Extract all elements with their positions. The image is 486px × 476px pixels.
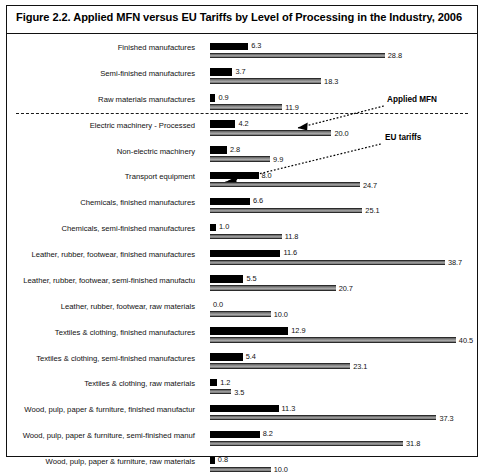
chart-row: Wood, pulp, paper & furniture, semi-fini… xyxy=(7,428,477,454)
applied-mfn-bar xyxy=(210,250,280,258)
row-bars: 8.231.8 xyxy=(210,428,477,454)
chart-row: Electric machinery - Processed4.220.0 xyxy=(7,118,477,144)
applied-mfn-bar xyxy=(210,457,215,465)
figure-title: Figure 2.2. Applied MFN versus EU Tariff… xyxy=(16,11,462,23)
applied-mfn-value: 0.9 xyxy=(218,93,228,102)
eu-tariffs-bar xyxy=(210,208,362,214)
row-bars: 5.423.1 xyxy=(210,351,477,377)
category-label: Chemicals, finished manufactures xyxy=(80,198,195,207)
eu-tariffs-value: 38.7 xyxy=(448,258,462,267)
eu-tariffs-bar xyxy=(210,337,456,343)
chart-row: Wood, pulp, paper & furniture, finished … xyxy=(7,402,477,428)
eu-tariffs-bar xyxy=(210,363,350,369)
category-label: Textiles & clothing, raw materials xyxy=(84,379,195,388)
chart-row: Textiles & clothing, finished manufactur… xyxy=(7,325,477,351)
applied-mfn-bar xyxy=(210,327,288,335)
row-bars: 12.940.5 xyxy=(210,325,477,351)
category-label: Wood, pulp, paper & furniture, finished … xyxy=(24,405,195,414)
figure-frame: Figure 2.2. Applied MFN versus EU Tariff… xyxy=(6,5,478,457)
row-bars: 4.220.0 xyxy=(210,118,477,144)
applied-mfn-value: 12.9 xyxy=(291,326,305,335)
category-label: Transport equipment xyxy=(125,172,195,181)
eu-tariffs-bar xyxy=(210,415,436,421)
chart-row: Textiles & clothing, raw materials1.23.5 xyxy=(7,376,477,402)
category-label: Textiles & clothing, finished manufactur… xyxy=(55,328,195,337)
applied-mfn-bar xyxy=(210,431,260,439)
applied-mfn-value: 6.6 xyxy=(253,196,263,205)
applied-mfn-bar xyxy=(210,172,259,180)
eu-tariffs-bar xyxy=(210,467,271,473)
chart-row: Chemicals, semi-finished manufactures1.0… xyxy=(7,221,477,247)
category-label: Textiles & clothing, semi-finished manuf… xyxy=(36,354,195,363)
chart-row: Semi-finished manufactures3.718.3 xyxy=(7,66,477,92)
eu-tariffs-value: 11.9 xyxy=(285,103,299,112)
figure-title-bar: Figure 2.2. Applied MFN versus EU Tariff… xyxy=(7,6,477,34)
category-label: Finished manufactures xyxy=(118,43,195,52)
applied-mfn-bar xyxy=(210,94,215,102)
chart-row: Leather, rubber, footwear, raw materials… xyxy=(7,299,477,325)
eu-tariffs-value: 20.0 xyxy=(334,129,348,138)
eu-tariffs-bar xyxy=(210,104,282,110)
category-label: Wood, pulp, paper & furniture, semi-fini… xyxy=(23,431,195,440)
category-label: Leather, rubber, footwear, finished manu… xyxy=(31,250,195,259)
eu-tariffs-value: 3.5 xyxy=(234,388,244,397)
eu-tariffs-value: 37.3 xyxy=(439,414,453,423)
applied-mfn-value: 3.7 xyxy=(235,67,245,76)
category-label: Non-electric machinery xyxy=(117,147,195,156)
applied-mfn-value: 8.0 xyxy=(262,171,272,180)
category-label: Semi-finished manufactures xyxy=(100,69,195,78)
category-label: Electric machinery - Processed xyxy=(90,121,195,130)
applied-mfn-bar xyxy=(210,275,243,283)
eu-tariffs-bar xyxy=(210,311,271,317)
eu-tariffs-value: 9.9 xyxy=(273,155,283,164)
eu-tariffs-bar xyxy=(210,260,445,266)
eu-tariffs-value: 23.1 xyxy=(353,362,367,371)
eu-tariffs-bar xyxy=(210,441,403,447)
row-bars: 0.010.0 xyxy=(210,299,477,325)
applied-mfn-bar xyxy=(210,146,227,154)
eu-tariffs-bar xyxy=(210,234,282,240)
eu-tariffs-bar xyxy=(210,53,385,59)
eu-tariffs-bar xyxy=(210,130,331,136)
eu-tariffs-value: 10.0 xyxy=(274,310,288,319)
row-bars: 3.718.3 xyxy=(210,66,477,92)
chart-row: Transport equipment8.024.7 xyxy=(7,169,477,195)
chart-row: Leather, rubber, footwear, finished manu… xyxy=(7,247,477,273)
eu-tariffs-bar xyxy=(210,285,336,291)
row-bars: 5.520.7 xyxy=(210,273,477,299)
row-bars: 0.810.0 xyxy=(210,454,477,476)
applied-mfn-bar xyxy=(210,405,279,413)
eu-tariffs-value: 31.8 xyxy=(406,439,420,448)
row-bars: 1.011.8 xyxy=(210,221,477,247)
eu-tariffs-bar xyxy=(210,78,321,84)
category-label: Raw materials manufactures xyxy=(98,95,195,104)
category-label: Chemicals, semi-finished manufactures xyxy=(62,224,195,233)
chart-row: Wood, pulp, paper & furniture, raw mater… xyxy=(7,454,477,476)
row-bars: 6.328.8 xyxy=(210,40,477,66)
category-label: Leather, rubber, footwear, semi-finished… xyxy=(23,276,195,285)
row-bars: 1.23.5 xyxy=(210,376,477,402)
category-label: Wood, pulp, paper & furniture, raw mater… xyxy=(46,457,195,466)
row-bars: 8.024.7 xyxy=(210,169,477,195)
applied-mfn-bar xyxy=(210,120,235,128)
eu-tariffs-value: 20.7 xyxy=(339,284,353,293)
applied-mfn-value: 5.5 xyxy=(246,274,256,283)
section-divider xyxy=(16,113,468,114)
applied-mfn-value: 0.8 xyxy=(218,455,228,464)
applied-mfn-value: 4.2 xyxy=(238,119,248,128)
row-bars: 6.625.1 xyxy=(210,195,477,221)
applied-mfn-bar xyxy=(210,379,217,387)
eu-tariffs-value: 25.1 xyxy=(365,206,379,215)
category-label: Leather, rubber, footwear, raw materials xyxy=(61,302,195,311)
applied-mfn-value: 0.0 xyxy=(213,300,223,309)
eu-tariffs-bar xyxy=(210,156,270,162)
row-bars: 11.337.3 xyxy=(210,402,477,428)
applied-mfn-bar xyxy=(210,43,248,51)
eu-tariffs-bar xyxy=(210,182,360,188)
applied-mfn-value: 1.0 xyxy=(219,222,229,231)
applied-mfn-bar xyxy=(210,198,250,206)
chart-row: Leather, rubber, footwear, semi-finished… xyxy=(7,273,477,299)
chart-row: Finished manufactures6.328.8 xyxy=(7,40,477,66)
row-bars: 2.89.9 xyxy=(210,144,477,170)
applied-mfn-bar xyxy=(210,224,216,232)
